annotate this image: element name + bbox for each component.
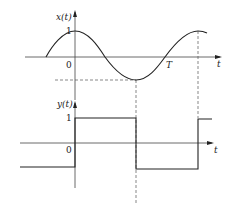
bottom-y-axis-arrow-icon [73, 101, 77, 108]
bottom-t-axis-arrow-icon [207, 141, 214, 145]
top-origin-label: 0 [66, 60, 72, 70]
top-t-label: t [217, 59, 221, 69]
cosine-curve [46, 31, 207, 80]
bottom-plot: y(t) 1 0 t [20, 99, 218, 188]
top-y-axis-arrow-icon [73, 10, 77, 17]
bottom-t-label: t [214, 145, 218, 155]
top-y-label: x(t) [56, 12, 72, 22]
square-wave [20, 118, 212, 169]
bottom-origin-label: 0 [66, 145, 72, 155]
top-tick-one: 1 [66, 26, 72, 36]
period-label: T [166, 60, 173, 70]
diagram-canvas: x(t) 1 0 T t y(t) 1 0 t [0, 0, 235, 204]
top-plot: x(t) 1 0 T t [25, 10, 222, 204]
bottom-tick-one: 1 [66, 113, 72, 123]
bottom-y-label: y(t) [56, 99, 73, 109]
